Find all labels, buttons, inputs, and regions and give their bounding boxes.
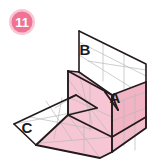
label-c: C: [22, 119, 33, 136]
label-a: A: [110, 89, 121, 106]
origami-diagram-svg: 11 A B C: [0, 0, 161, 163]
step-badge: 11: [9, 9, 35, 35]
step-badge-number: 11: [15, 15, 29, 30]
origami-step-figure: 11 A B C: [0, 0, 161, 163]
label-b: B: [80, 41, 91, 58]
